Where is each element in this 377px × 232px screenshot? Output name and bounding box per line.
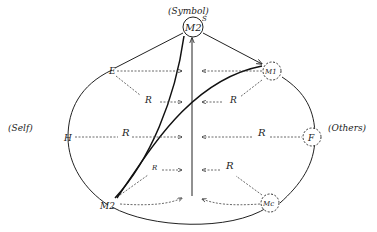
node-f-label: F [307,133,315,143]
s-mark: S [202,15,207,23]
curve-m2-to-symbol [115,36,184,198]
node-h-label: H [63,133,72,143]
label-others: (Others) [328,123,367,133]
dash-m1-to-r [240,80,262,97]
semiotic-diagram: M2 S M1 F Mc M2 E H R R R R R R (Symbol)… [0,0,377,232]
r-label-mid-right: R [257,127,266,138]
label-symbol: (Symbol) [168,6,209,16]
dash-mc-to-r [236,176,262,195]
node-m1-label: M1 [264,68,277,76]
node-mc-label: Mc [262,200,274,208]
r-label-upper-right: R [229,95,237,105]
node-m2-self-label: M2 [99,201,115,211]
label-self: (Self) [8,123,33,133]
r-label-lower-left: R [151,164,158,172]
curve-m2-to-m1 [117,66,262,198]
dash-m2-to-r [120,175,148,195]
r-label-mid-left: R [121,127,130,138]
r-label-lower-right: R [225,160,234,171]
node-e-label: E [108,66,116,76]
line-symbol-to-e [115,33,183,68]
arrow-mc-to-center [202,199,260,205]
r-label-upper-left: R [144,95,152,105]
node-m2-symbol-label: M2 [184,22,202,33]
dash-e-to-r [116,76,140,95]
arrow-symbol-to-m1 [203,33,262,64]
arrow-m2-bottom-to-center [120,198,182,205]
